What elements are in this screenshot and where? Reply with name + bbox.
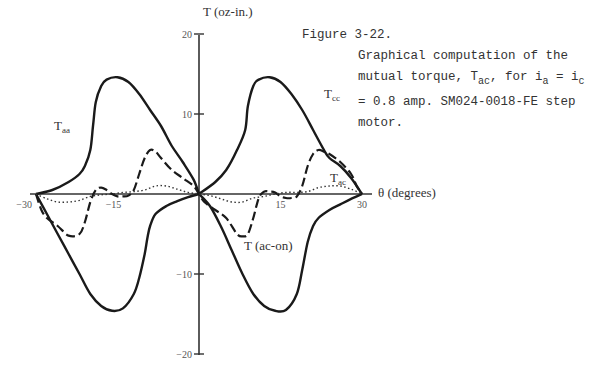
series-label-tac: Tac (330, 170, 346, 187)
caption-sub: ac (478, 76, 490, 87)
caption-line-3: = 0.8 amp. SM024-0018-FE step (358, 92, 598, 113)
series-label-taa: Taa (54, 118, 70, 135)
y-tick-label: −20 (176, 349, 192, 360)
y-tick-label: −10 (176, 269, 192, 280)
curve-taa (36, 77, 199, 194)
caption-sub: c (579, 76, 585, 87)
tcc-label-main: T (324, 86, 332, 101)
tcc-label-sub: cc (332, 93, 340, 103)
caption-text: = i (549, 70, 579, 84)
series-label-tacon: T (ac-on) (244, 238, 292, 254)
tac-label-main: T (330, 170, 338, 185)
x-tick-label: 15 (276, 199, 286, 210)
curve-taa-negative-lobe (36, 194, 199, 311)
figure-caption: Graphical computation of the mutual torq… (358, 46, 598, 134)
x-axis-label: θ (degrees) (378, 185, 436, 201)
caption-line-1: Graphical computation of the (358, 46, 598, 67)
y-tick-label: 20 (182, 29, 192, 40)
x-tick-label: −15 (106, 199, 122, 210)
taa-label-sub: aa (62, 125, 70, 135)
caption-line-4: motor. (358, 113, 598, 134)
caption-text: mutual torque, T (358, 70, 478, 84)
figure-number: Figure 3-22. (302, 25, 392, 46)
caption-text: , for i (490, 70, 543, 84)
x-tick-label: 30 (357, 199, 367, 210)
y-axis-label: T (oz-in.) (203, 4, 253, 20)
series-label-tcc: Tcc (324, 86, 340, 103)
x-tick-label: −30 (16, 199, 32, 210)
tac-label-sub: ac (338, 177, 346, 187)
y-tick-label: 10 (182, 109, 192, 120)
taa-label-main: T (54, 118, 62, 133)
caption-line-2: mutual torque, Tac, for ia = ic (358, 67, 598, 92)
